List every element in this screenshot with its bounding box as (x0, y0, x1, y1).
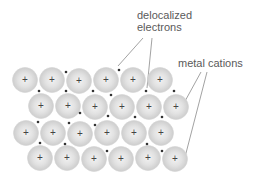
metal-cation: + (83, 95, 108, 120)
metal-cation: + (148, 68, 173, 93)
electron-dot (107, 115, 110, 118)
electron-dot (118, 69, 121, 72)
leader-line-electron (118, 38, 143, 66)
electron-dot (68, 122, 71, 125)
metal-cation: + (110, 95, 135, 120)
plus-charge-icon: + (22, 74, 28, 85)
electron-dot (92, 90, 95, 93)
leader-line-cation (185, 72, 207, 157)
plus-charge-icon: + (172, 153, 178, 164)
electron-dot (64, 143, 67, 146)
metallic-bonding-diagram: ++++++++++++++++++++++++ delocalized ele… (0, 0, 253, 179)
metal-cation: + (82, 147, 107, 172)
metal-cation: + (137, 95, 162, 120)
electron-dot (173, 90, 176, 93)
label-line-2: electrons (137, 21, 192, 33)
metal-cation: + (56, 94, 81, 119)
plus-charge-icon: + (173, 101, 179, 112)
metal-cation: + (149, 121, 174, 146)
electron-dot (94, 124, 97, 127)
metal-cation: + (163, 147, 188, 172)
electron-dot (145, 90, 148, 93)
plus-charge-icon: + (37, 152, 43, 163)
plus-charge-icon: + (118, 153, 124, 164)
plus-charge-icon: + (103, 74, 109, 85)
lattice-drawing: ++++++++++++++++++++++++ (0, 0, 253, 179)
plus-charge-icon: + (158, 127, 164, 138)
electron-dot (161, 116, 164, 119)
metal-cation: + (14, 121, 39, 146)
metal-cations-label: metal cations (178, 57, 243, 69)
plus-charge-icon: + (146, 101, 152, 112)
electron-dot (65, 90, 68, 93)
plus-charge-icon: + (92, 101, 98, 112)
metal-cation: + (109, 147, 134, 172)
metal-cation: + (28, 146, 53, 171)
metal-cation: + (55, 146, 80, 171)
metal-cation: + (40, 68, 65, 93)
metal-cation: + (121, 68, 146, 93)
plus-charge-icon: + (145, 152, 151, 163)
plus-charge-icon: + (131, 127, 137, 138)
label-line-1: delocalized (137, 9, 192, 21)
electron-dot (134, 116, 137, 119)
delocalized-electrons-label: delocalized electrons (137, 9, 192, 33)
plus-charge-icon: + (64, 152, 70, 163)
electron-dot (110, 94, 113, 97)
electron-dot (65, 71, 68, 74)
leader-line-cation (184, 72, 201, 103)
metal-cation: + (164, 95, 189, 120)
metal-cation: + (136, 146, 161, 171)
plus-charge-icon: + (77, 128, 83, 139)
metal-cation: + (67, 69, 92, 94)
plus-charge-icon: + (157, 74, 163, 85)
plus-charge-icon: + (76, 75, 82, 86)
plus-charge-icon: + (38, 100, 44, 111)
plus-charge-icon: + (23, 127, 29, 138)
metal-cation: + (68, 122, 93, 147)
plus-charge-icon: + (49, 74, 55, 85)
plus-charge-icon: + (104, 127, 110, 138)
metal-cation: + (95, 121, 120, 146)
plus-charge-icon: + (65, 100, 71, 111)
electron-dot (106, 150, 109, 153)
metal-cation: + (29, 94, 54, 119)
electron-dot (79, 112, 82, 115)
metal-cation: + (122, 121, 147, 146)
metal-cation-lattice: ++++++++++++++++++++++++ (13, 68, 189, 172)
electron-dot (161, 150, 164, 153)
metal-cation: + (41, 121, 66, 146)
electron-dot (39, 142, 42, 145)
plus-charge-icon: + (50, 127, 56, 138)
electron-dot (146, 143, 149, 146)
electron-dot (38, 90, 41, 93)
metal-cation: + (13, 68, 38, 93)
metal-cation: + (94, 68, 119, 93)
plus-charge-icon: + (130, 74, 136, 85)
plus-charge-icon: + (91, 153, 97, 164)
plus-charge-icon: + (119, 101, 125, 112)
electron-dot (37, 121, 40, 124)
